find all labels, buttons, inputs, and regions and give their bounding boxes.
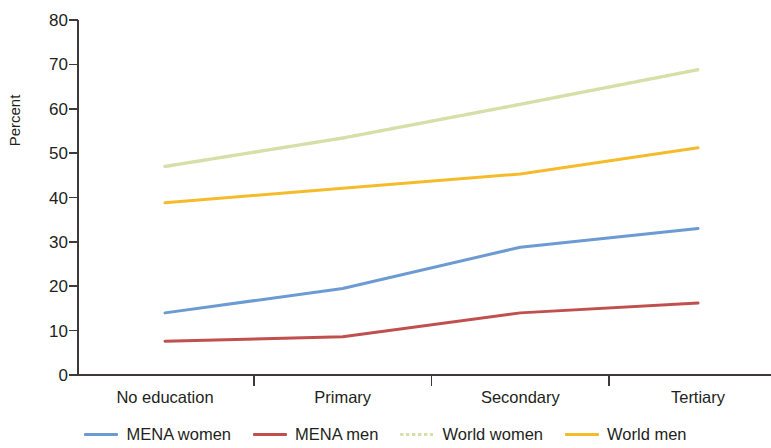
legend-label: MENA women — [126, 426, 231, 443]
legend-item-world-men[interactable]: World men — [565, 426, 686, 443]
legend-swatch-icon — [400, 433, 434, 436]
legend-item-world-women[interactable]: World women — [400, 426, 543, 443]
legend-label: World women — [442, 426, 543, 443]
data-series-group — [165, 70, 698, 342]
series-line-mena-men — [165, 303, 698, 341]
legend-label: World men — [607, 426, 686, 443]
chart-legend: MENA womenMENA menWorld womenWorld men — [0, 420, 771, 448]
series-line-mena-women — [165, 229, 698, 313]
x-category-label: Tertiary — [671, 388, 725, 407]
legend-item-mena-women[interactable]: MENA women — [84, 426, 231, 443]
legend-label: MENA men — [295, 426, 378, 443]
legend-swatch-icon — [253, 433, 287, 436]
series-line-world-men — [165, 148, 698, 203]
legend-item-mena-men[interactable]: MENA men — [253, 426, 378, 443]
x-category-label: No education — [116, 388, 213, 407]
series-line-world-women — [165, 70, 698, 167]
line-chart: Percent 01020304050607080 No educationPr… — [0, 0, 771, 448]
x-category-label: Primary — [314, 388, 371, 407]
legend-swatch-icon — [565, 433, 599, 436]
legend-swatch-icon — [84, 433, 118, 436]
plot-area — [0, 0, 771, 448]
x-category-label: Secondary — [481, 388, 560, 407]
